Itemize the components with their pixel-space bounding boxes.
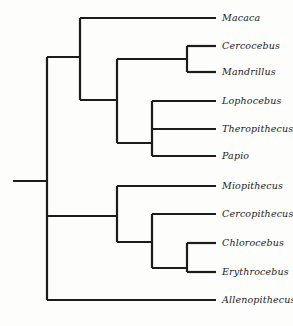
branch-line-group	[13, 18, 216, 300]
tip-label-cercopithecus: Cercopithecus	[222, 209, 293, 219]
tip-label-allenopithecus: Allenopithecus	[222, 295, 293, 305]
phylogenetic-tree-figure: MacacaCercocebusMandrillusLophocebusTher…	[0, 0, 293, 326]
tip-label-mandrillus: Mandrillus	[222, 67, 276, 77]
tip-label-miopithecus: Miopithecus	[222, 181, 283, 191]
tip-label-papio: Papio	[222, 151, 249, 161]
tip-label-lophocebus: Lophocebus	[222, 96, 281, 106]
tip-label-erythrocebus: Erythrocebus	[222, 267, 289, 277]
tip-label-chlorocebus: Chlorocebus	[222, 238, 284, 248]
tip-label-cercocebus: Cercocebus	[222, 41, 280, 51]
tip-label-theropithecus: Theropithecus	[222, 124, 293, 134]
tip-label-macaca: Macaca	[222, 13, 260, 23]
